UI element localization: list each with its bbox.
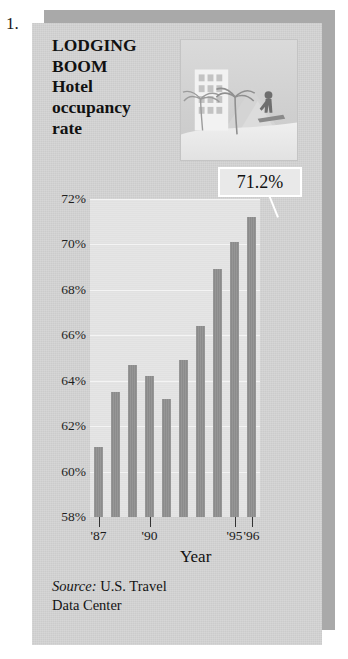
card-shadow-top	[44, 10, 335, 23]
plot-wrapper: 72%70%68%66%64%62%60%58%'87'90'95'96	[32, 23, 322, 645]
x-axis-tick-label: '96	[244, 528, 260, 544]
bar	[247, 217, 256, 517]
bar	[128, 365, 137, 517]
x-axis-tick-label: '90	[142, 528, 158, 544]
card-shadow-right	[322, 10, 335, 630]
y-axis-tick-label: 60%	[42, 464, 86, 480]
chart-card: LODGING BOOM Hotel occupancy rate	[32, 23, 322, 645]
x-axis-tick-mark	[252, 517, 253, 527]
y-axis-tick-label: 64%	[42, 373, 86, 389]
bar	[145, 376, 154, 517]
source-text-line2: Data Center	[52, 597, 122, 613]
source-label: Source:	[52, 578, 97, 594]
x-axis-tick-mark	[150, 517, 151, 527]
x-axis-tick-label: '87	[91, 528, 107, 544]
y-axis-tick-label: 58%	[42, 509, 86, 525]
bar	[230, 242, 239, 517]
y-axis-tick-label: 72%	[42, 191, 86, 207]
plot-area	[90, 199, 260, 517]
gridline	[90, 199, 260, 200]
x-axis-tick-mark	[235, 517, 236, 527]
callout-value-badge: 71.2%	[218, 167, 302, 197]
y-axis-tick-label: 70%	[42, 236, 86, 252]
source-text: U.S. Travel	[97, 578, 167, 594]
bar	[196, 326, 205, 517]
y-axis-tick-label: 66%	[42, 327, 86, 343]
x-axis-tick-mark	[99, 517, 100, 527]
y-axis-tick-label: 62%	[42, 418, 86, 434]
y-axis-tick-label: 68%	[42, 282, 86, 298]
x-axis-tick-label: '95	[227, 528, 243, 544]
bar	[162, 399, 171, 517]
x-axis-title: Year	[180, 547, 211, 567]
bar	[213, 269, 222, 517]
figure-number: 1.	[6, 14, 19, 34]
source-note: Source: U.S. Travel Data Center	[52, 577, 282, 614]
bar	[94, 447, 103, 517]
bar	[179, 360, 188, 517]
bar	[111, 392, 120, 517]
